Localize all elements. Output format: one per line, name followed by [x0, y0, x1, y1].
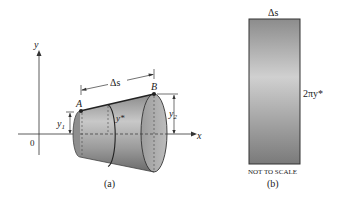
- y-star-label: y*: [115, 113, 125, 123]
- arc-length-label: Δs: [110, 77, 120, 88]
- rect-height-label: 2πy*: [303, 88, 323, 99]
- origin-label: 0: [30, 138, 35, 148]
- frustum: [73, 94, 167, 172]
- not-to-scale-note: NOT TO SCALE: [248, 168, 297, 176]
- y-axis-label: y: [33, 39, 39, 50]
- y1-label: y1: [56, 118, 65, 131]
- figure-a: A B Δs y1 y2 y*: [18, 39, 202, 190]
- y-axis: [37, 50, 42, 155]
- point-b-label: B: [151, 81, 157, 92]
- figure-b-caption: (b): [267, 178, 279, 190]
- y-axis-arrow-icon: [37, 50, 42, 56]
- y1-dimension: y1: [56, 112, 74, 134]
- figure-b: Δs 2πy* NOT TO SCALE (b): [248, 7, 323, 190]
- surface-area-diagram: A B Δs y1 y2 y*: [0, 0, 337, 200]
- figure-a-caption: (a): [104, 178, 115, 190]
- x-axis-label: x: [196, 130, 202, 141]
- point-b-marker: [152, 92, 156, 96]
- unrolled-rectangle: [249, 19, 300, 164]
- point-a-marker: [79, 109, 83, 113]
- point-a-label: A: [75, 98, 83, 109]
- arc-length-dimension: Δs: [81, 69, 154, 95]
- y2-label: y2: [168, 108, 177, 121]
- rect-width-label: Δs: [268, 7, 278, 18]
